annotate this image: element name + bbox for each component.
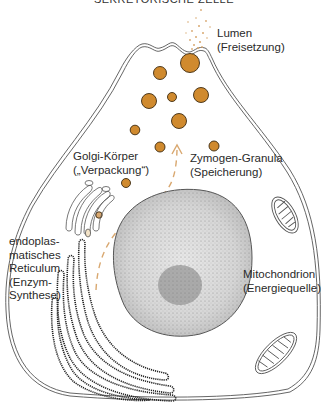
label-mito-title: Mitochondrion xyxy=(243,268,321,282)
label-er-line2: matisches xyxy=(9,249,61,263)
cell-illustration xyxy=(0,0,328,405)
label-golgi: Golgi-Körper („Verpackung“) xyxy=(73,150,149,177)
label-mitochondrion: Mitochondrion (Energiequelle) xyxy=(243,268,321,295)
secretory-cell-diagram: SEKRETORISCHE ZELLE xyxy=(0,0,328,405)
label-zymogen: Zymogen-Granula (Speicherung) xyxy=(190,152,283,179)
label-er-line1: endoplas- xyxy=(9,235,61,249)
label-zymogen-title: Zymogen-Granula xyxy=(190,152,283,166)
label-er-line4: (Enzym- xyxy=(9,276,61,290)
mitochondrion-lower xyxy=(249,326,303,380)
secretion-particles xyxy=(185,9,211,50)
label-mito-subtitle: (Energiequelle) xyxy=(243,282,321,296)
label-er-line5: Synthese) xyxy=(9,289,61,303)
golgi-apparatus xyxy=(66,181,114,238)
label-er: endoplas- matisches Reticulum (Enzym- Sy… xyxy=(9,235,61,303)
label-er-line3: Reticulum xyxy=(9,262,61,276)
label-golgi-subtitle: („Verpackung“) xyxy=(73,164,149,178)
label-zymogen-subtitle: (Speicherung) xyxy=(190,166,283,180)
label-lumen-subtitle: (Freisetzung) xyxy=(217,41,285,55)
label-golgi-title: Golgi-Körper xyxy=(73,150,149,164)
label-lumen: Lumen (Freisetzung) xyxy=(217,27,285,54)
nucleus xyxy=(113,189,252,336)
label-lumen-title: Lumen xyxy=(217,27,285,41)
mitochondrion-upper xyxy=(266,193,303,238)
